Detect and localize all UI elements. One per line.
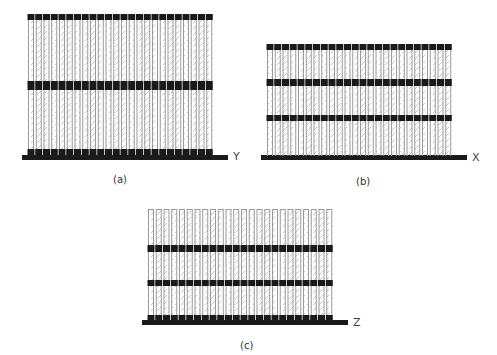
foot-block: [264, 315, 271, 322]
binding-block: [248, 245, 255, 252]
foot-block: [171, 315, 178, 322]
binding-block: [217, 280, 224, 286]
binding-block: [429, 79, 436, 86]
binding-block: [295, 280, 302, 286]
lattice-column: [437, 44, 444, 156]
binding-block: [391, 44, 398, 50]
binding-block: [28, 14, 35, 20]
lattice-column: [310, 209, 317, 322]
binding-block: [383, 115, 390, 121]
lattice-column: [171, 209, 178, 322]
lattice-column: [155, 209, 162, 322]
binding-block: [51, 14, 58, 20]
foot-block: [279, 315, 286, 322]
lattice-column: [179, 209, 186, 322]
binding-block: [136, 81, 143, 90]
binding-block: [290, 115, 297, 121]
binding-block: [344, 79, 351, 86]
binding-block: [128, 14, 135, 20]
foot-block: [175, 149, 182, 156]
lattice-column: [82, 14, 89, 156]
binding-block: [360, 115, 367, 121]
lattice-column: [152, 14, 159, 156]
binding-block: [326, 245, 333, 252]
binding-block: [183, 81, 190, 90]
binding-block: [225, 245, 232, 252]
binding-block: [437, 44, 444, 50]
foot-block: [256, 315, 263, 322]
binding-block: [267, 115, 274, 121]
binding-block: [305, 44, 312, 50]
binding-block: [206, 81, 213, 90]
foot-block: [59, 149, 66, 156]
binding-block: [279, 245, 286, 252]
binding-block: [194, 245, 201, 252]
foot-block: [97, 149, 104, 156]
lattice-column: [274, 44, 281, 156]
binding-block: [179, 280, 186, 286]
lattice-column: [241, 209, 248, 322]
panel-a-diagram: [22, 14, 228, 160]
lattice-column: [74, 14, 81, 156]
foot-block: [144, 149, 151, 156]
binding-block: [290, 79, 297, 86]
binding-block: [159, 81, 166, 90]
foot-block: [179, 315, 186, 322]
binding-block: [279, 280, 286, 286]
lattice-column: [198, 14, 205, 156]
binding-block: [272, 245, 279, 252]
binding-block: [326, 280, 333, 286]
binding-block: [437, 115, 444, 121]
lattice-column: [90, 14, 97, 156]
binding-block: [198, 81, 205, 90]
foot-block: [136, 149, 143, 156]
foot-block: [210, 315, 217, 322]
binding-block: [303, 245, 310, 252]
lattice-column: [28, 14, 35, 156]
binding-block: [105, 14, 112, 20]
binding-block: [445, 115, 452, 121]
binding-block: [313, 79, 320, 86]
binding-block: [183, 14, 190, 20]
binding-block: [74, 14, 81, 20]
lattice-column: [159, 14, 166, 156]
foot-block: [198, 149, 205, 156]
binding-block: [310, 280, 317, 286]
binding-block: [163, 245, 170, 252]
binding-block: [305, 115, 312, 121]
lattice-column: [295, 209, 302, 322]
foot-block: [225, 315, 232, 322]
foot-block: [318, 315, 325, 322]
binding-block: [437, 79, 444, 86]
foot-block: [82, 149, 89, 156]
foot-block: [28, 149, 35, 156]
binding-block: [121, 81, 128, 90]
binding-block: [190, 14, 197, 20]
lattice-column: [313, 44, 320, 156]
lattice-column: [383, 44, 390, 156]
foot-block: [74, 149, 81, 156]
binding-block: [375, 79, 382, 86]
binding-block: [97, 14, 104, 20]
foot-block: [310, 315, 317, 322]
foot-block: [233, 315, 240, 322]
binding-block: [287, 245, 294, 252]
binding-block: [383, 44, 390, 50]
binding-block: [241, 280, 248, 286]
foot-block: [217, 315, 224, 322]
lattice-column: [190, 14, 197, 156]
binding-block: [287, 280, 294, 286]
binding-block: [367, 44, 374, 50]
binding-block: [295, 245, 302, 252]
binding-block: [429, 115, 436, 121]
lattice-column: [233, 209, 240, 322]
foot-block: [155, 315, 162, 322]
binding-block: [217, 245, 224, 252]
foot-block: [121, 149, 128, 156]
foot-block: [35, 149, 42, 156]
lattice-column: [360, 44, 367, 156]
panel-a-axis-label: Y: [233, 150, 240, 163]
binding-block: [310, 245, 317, 252]
binding-block: [318, 245, 325, 252]
binding-block: [303, 280, 310, 286]
